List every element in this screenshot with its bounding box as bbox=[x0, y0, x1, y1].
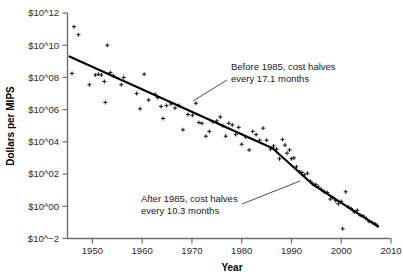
y-tick-label: $10^10 bbox=[28, 40, 59, 51]
data-point bbox=[194, 101, 198, 105]
y-tick-label: $10^−2 bbox=[28, 233, 59, 244]
data-point bbox=[278, 157, 282, 161]
after-1985-note-line: After 1985, cost halves bbox=[141, 193, 238, 204]
data-point bbox=[99, 73, 103, 77]
chart-figure: $10^12$10^10$10^08$10^06$10^04$10^02$10^… bbox=[0, 0, 403, 278]
data-point bbox=[251, 129, 255, 133]
data-point bbox=[159, 104, 163, 108]
data-point bbox=[138, 107, 142, 111]
y-axis-ticks: $10^12$10^10$10^08$10^06$10^04$10^02$10^… bbox=[28, 7, 68, 244]
data-point bbox=[103, 100, 107, 104]
y-tick-label: $10^06 bbox=[28, 104, 59, 115]
annotation-texts: Before 1985, cost halvesevery 17.1 month… bbox=[141, 61, 336, 216]
trend-line-after-1985 bbox=[273, 148, 379, 226]
y-tick-label: $10^00 bbox=[28, 201, 59, 212]
x-axis-ticks: 1950196019701980199020002010 bbox=[82, 239, 402, 257]
y-tick-label: $10^08 bbox=[28, 72, 59, 83]
leader-line bbox=[193, 80, 227, 101]
data-point bbox=[181, 128, 185, 132]
data-point bbox=[247, 148, 251, 152]
annotation-leader-lines bbox=[193, 80, 300, 204]
data-point bbox=[135, 92, 139, 96]
data-point bbox=[93, 73, 97, 77]
data-point bbox=[237, 125, 241, 129]
data-point bbox=[161, 117, 165, 121]
before-1985-note-line: Before 1985, cost halves bbox=[231, 61, 336, 72]
data-point bbox=[76, 33, 80, 37]
data-point bbox=[227, 121, 231, 125]
data-point bbox=[190, 113, 194, 117]
data-point bbox=[281, 137, 285, 141]
data-point bbox=[285, 151, 289, 155]
data-point bbox=[165, 104, 169, 108]
y-axis-title: Dollars per MIPS bbox=[5, 86, 16, 166]
data-point bbox=[102, 79, 106, 83]
data-point bbox=[341, 227, 345, 231]
data-point bbox=[87, 83, 91, 87]
data-point bbox=[186, 112, 190, 116]
data-point bbox=[218, 115, 222, 119]
data-point bbox=[96, 72, 100, 76]
data-point bbox=[147, 98, 151, 102]
leader-line bbox=[242, 181, 300, 204]
y-tick-label: $10^12 bbox=[28, 7, 59, 18]
y-tick-label: $10^04 bbox=[28, 136, 59, 147]
data-point bbox=[173, 106, 177, 110]
data-point bbox=[265, 138, 269, 142]
y-tick-label: $10^02 bbox=[28, 168, 59, 179]
data-point bbox=[105, 43, 109, 47]
data-point bbox=[289, 157, 293, 161]
before-1985-note-line: every 17.1 months bbox=[231, 73, 309, 84]
data-point bbox=[230, 123, 234, 127]
x-tick-label: 1950 bbox=[82, 245, 103, 256]
data-point bbox=[283, 143, 287, 147]
x-tick-label: 2000 bbox=[331, 245, 352, 256]
data-point bbox=[254, 133, 258, 137]
data-point bbox=[261, 126, 265, 130]
cost-per-mips-scatter-chart: $10^12$10^10$10^08$10^06$10^04$10^02$10^… bbox=[0, 0, 403, 278]
data-point bbox=[287, 148, 291, 152]
x-tick-label: 1980 bbox=[231, 245, 252, 256]
data-point bbox=[142, 72, 146, 76]
x-tick-label: 1970 bbox=[181, 245, 202, 256]
data-point bbox=[122, 75, 126, 79]
x-tick-label: 1990 bbox=[281, 245, 302, 256]
data-point bbox=[72, 25, 76, 29]
data-point bbox=[119, 83, 123, 87]
x-tick-label: 1960 bbox=[132, 245, 153, 256]
data-point bbox=[70, 71, 74, 75]
data-point bbox=[197, 121, 201, 125]
data-point bbox=[200, 121, 204, 125]
data-point bbox=[292, 156, 296, 160]
after-1985-note-line: every 10.3 months bbox=[141, 205, 219, 216]
data-point bbox=[224, 134, 228, 138]
data-point bbox=[207, 129, 211, 133]
x-tick-label: 2010 bbox=[380, 245, 401, 256]
data-point bbox=[344, 190, 348, 194]
x-axis-title: Year bbox=[221, 262, 242, 273]
data-point bbox=[204, 134, 208, 138]
data-point bbox=[240, 142, 244, 146]
